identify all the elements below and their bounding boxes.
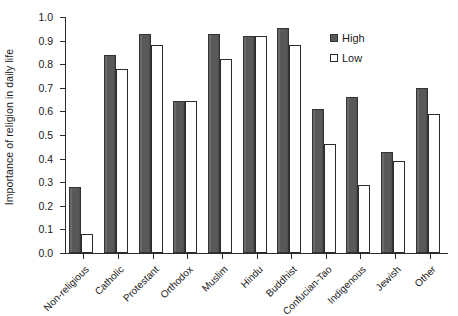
x-tick-mark (153, 254, 154, 259)
bar-high (346, 97, 358, 253)
y-tick-label: 0.6 (23, 105, 53, 117)
legend-swatch-icon (330, 54, 338, 62)
bar-low (393, 161, 405, 253)
bar-high (381, 152, 393, 253)
y-tick-label: 0.9 (23, 35, 53, 47)
y-tick-mark (60, 41, 65, 42)
bar-high (173, 101, 185, 253)
legend-swatch-icon (330, 34, 338, 42)
bar-low (358, 185, 370, 253)
x-tick-mark (360, 254, 361, 259)
bar-high (69, 187, 81, 253)
x-tick-mark (83, 254, 84, 259)
y-tick-label: 0.2 (23, 200, 53, 212)
y-tick-mark (60, 182, 65, 183)
y-tick-label: 1.0 (23, 11, 53, 23)
y-tick-label: 0.0 (23, 247, 53, 259)
x-tick-mark (326, 254, 327, 259)
x-tick-mark (222, 254, 223, 259)
y-tick-label: 0.3 (23, 176, 53, 188)
bar-low (116, 69, 128, 253)
bar-high (277, 28, 289, 253)
y-tick-mark (60, 88, 65, 89)
y-tick-label: 0.8 (23, 58, 53, 70)
bar-low (289, 45, 301, 253)
bar-group (277, 17, 301, 253)
y-tick-mark (60, 206, 65, 207)
y-tick-label: 0.1 (23, 223, 53, 235)
bar-low (324, 144, 336, 253)
y-tick-label: 0.5 (23, 129, 53, 141)
y-tick-mark (60, 253, 65, 254)
y-tick-label: 0.4 (23, 153, 53, 165)
bar-group (104, 17, 128, 253)
legend-label: Low (342, 52, 362, 64)
bar-group (173, 17, 197, 253)
bar-low (255, 36, 267, 253)
y-tick-mark (60, 229, 65, 230)
bar-high (104, 55, 116, 253)
bar-high (243, 36, 255, 253)
y-tick-mark (60, 111, 65, 112)
y-tick-mark (60, 64, 65, 65)
bar-chart-figure: Importance of religion in daily life 0.0… (0, 0, 458, 316)
bar-high (312, 109, 324, 253)
bar-low (151, 45, 163, 253)
bar-low (220, 59, 232, 253)
bar-group (416, 17, 440, 253)
bar-group (243, 17, 267, 253)
bar-high (208, 34, 220, 253)
y-tick-mark (60, 135, 65, 136)
chart-legend: HighLow (330, 28, 412, 68)
x-tick-mark (430, 254, 431, 259)
bar-low (81, 234, 93, 253)
legend-item-low[interactable]: Low (330, 48, 412, 68)
x-tick-mark (291, 254, 292, 259)
y-tick-mark (60, 159, 65, 160)
x-tick-mark (257, 254, 258, 259)
bar-low (185, 101, 197, 253)
legend-label: High (342, 32, 365, 44)
bar-high (139, 34, 151, 253)
y-tick-label: 0.7 (23, 82, 53, 94)
bar-group (139, 17, 163, 253)
y-axis-title: Importance of religion in daily life (0, 0, 18, 254)
bar-low (428, 114, 440, 253)
x-tick-mark (395, 254, 396, 259)
legend-item-high[interactable]: High (330, 28, 412, 48)
bar-group (208, 17, 232, 253)
x-tick-mark (187, 254, 188, 259)
bar-high (416, 88, 428, 253)
y-tick-mark (60, 17, 65, 18)
x-tick-mark (118, 254, 119, 259)
bar-group (69, 17, 93, 253)
